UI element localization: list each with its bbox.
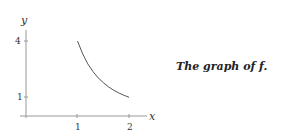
y-tick-label-1: 1 [17,92,23,102]
x-tick-label-2: 2 [127,122,133,132]
x-axis-label: x [149,110,156,123]
y-axis-label: y [20,14,28,27]
caption: The graph of f. [176,60,267,73]
caption-suffix: . [263,60,267,73]
y-tick-label-4: 4 [15,36,21,46]
x-tick-label-1: 1 [75,122,81,132]
chart: 1 2 4 1 y x [0,0,170,137]
caption-prefix: The graph of [176,60,255,73]
function-curve [78,41,130,97]
